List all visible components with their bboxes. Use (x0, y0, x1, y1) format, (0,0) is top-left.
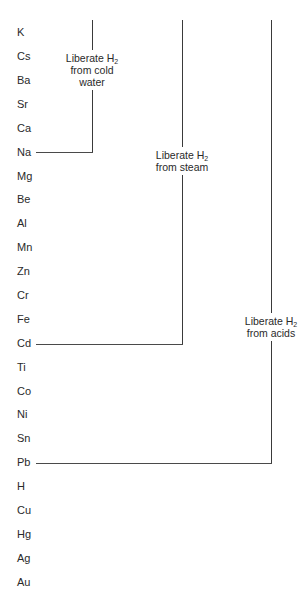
element-mn: Mn (17, 241, 32, 253)
element-cd: Cd (17, 337, 31, 349)
acids-bracket-horizontal (36, 463, 272, 464)
element-co: Co (17, 385, 31, 397)
steam-label: Liberate H2 from steam (146, 147, 218, 175)
steam-bracket-vertical (182, 20, 183, 345)
element-au: Au (17, 576, 30, 588)
element-al: Al (17, 217, 27, 229)
element-ag: Ag (17, 552, 30, 564)
element-ba: Ba (17, 74, 30, 86)
element-cr: Cr (17, 289, 29, 301)
cold-water-label: Liberate H2 from cold water (58, 50, 126, 90)
element-zn: Zn (17, 265, 30, 277)
element-na: Na (17, 146, 31, 158)
element-cs: Cs (17, 50, 30, 62)
element-ca: Ca (17, 122, 31, 134)
element-pb: Pb (17, 456, 30, 468)
element-cu: Cu (17, 504, 31, 516)
acids-bracket-vertical (271, 20, 272, 464)
acids-label: Liberate H2 from acids (238, 313, 304, 341)
element-sr: Sr (17, 98, 28, 110)
element-h: H (17, 480, 25, 492)
element-fe: Fe (17, 313, 30, 325)
element-sn: Sn (17, 432, 30, 444)
element-be: Be (17, 193, 30, 205)
element-ni: Ni (17, 408, 27, 420)
element-mg: Mg (17, 170, 32, 182)
element-ti: Ti (17, 361, 26, 373)
element-hg: Hg (17, 528, 31, 540)
steam-bracket-horizontal (36, 344, 183, 345)
cold-water-bracket-horizontal (36, 152, 93, 153)
element-k: K (17, 26, 24, 38)
